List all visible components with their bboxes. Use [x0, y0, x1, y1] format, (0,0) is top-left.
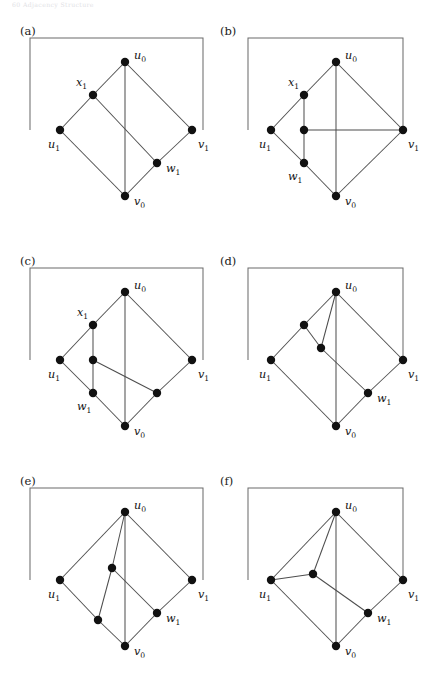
graph-panel-f: (f)u0u1v1w1v0 [220, 470, 435, 678]
graph-frame [248, 488, 403, 580]
graph-edge-w1-v0 [93, 393, 125, 426]
graph-node-m2 [94, 616, 102, 624]
vertex-label-v1: v1 [408, 588, 419, 603]
vertex-label-w1: w1 [166, 162, 180, 177]
vertex-label-u0: u0 [345, 49, 357, 64]
graph-edge-m1-w1 [112, 568, 157, 613]
graph-node-w1 [300, 159, 308, 167]
vertex-label-v1: v1 [198, 588, 209, 603]
graph-panel-a: (a)u0x1u1v1w1v0 [20, 20, 235, 238]
graph-node-v0 [121, 192, 129, 200]
graph-edge-u1-w1 [271, 130, 304, 163]
vertex-label-v0: v0 [345, 195, 356, 210]
graph-edge-x1-u0 [93, 292, 125, 325]
vertex-label-v0: v0 [345, 645, 356, 660]
vertex-label-w1: w1 [377, 612, 391, 627]
graph-frame [30, 38, 203, 130]
graph-node-u0 [121, 508, 129, 516]
graph-edge-m2-v0 [98, 620, 125, 646]
graph-edge-u0-v1 [125, 62, 192, 130]
graph-node-w1 [153, 609, 161, 617]
graph-node-v1 [399, 356, 407, 364]
graph-node-w1 [364, 389, 372, 397]
page-header: 60 Adjacency Structure [12, 1, 94, 8]
graph-node-m1 [300, 126, 308, 134]
graph-edge-m1-u0 [313, 512, 336, 574]
graph-node-u0 [121, 58, 129, 66]
graph-edge-m2-v1 [157, 360, 192, 393]
graph-panel-b: (b)u0x1u1w1v1v0 [220, 20, 435, 238]
vertex-label-w1: w1 [166, 612, 180, 627]
graph-canvas-a: u0x1u1v1w1v0 [20, 20, 235, 238]
graph-canvas-c: u0x1u1w1v1v0 [20, 250, 235, 468]
graph-edge-m1-w1 [313, 574, 368, 613]
graph-edge-v0-w1 [125, 613, 157, 646]
graph-node-v1 [399, 126, 407, 134]
graph-edge-v0-v1 [336, 130, 403, 196]
vertex-label-u0: u0 [345, 279, 357, 294]
graph-edge-v0-w1 [125, 163, 157, 196]
graph-node-v0 [121, 642, 129, 650]
vertex-label-u1: u1 [259, 588, 271, 603]
graph-node-v0 [332, 642, 340, 650]
graph-node-u1 [56, 576, 64, 584]
graph-node-w1 [153, 159, 161, 167]
graph-node-u1 [56, 356, 64, 364]
vertex-label-u0: u0 [345, 499, 357, 514]
vertex-label-v1: v1 [198, 368, 209, 383]
graph-edge-v0-w1 [336, 613, 368, 646]
graph-node-x1 [300, 91, 308, 99]
graph-node-u1 [267, 576, 275, 584]
graph-edge-u1-v0 [271, 360, 336, 426]
vertex-label-x1: x1 [288, 76, 299, 91]
vertex-label-u0: u0 [134, 279, 146, 294]
vertex-label-v1: v1 [198, 138, 209, 153]
graph-panel-d: (d)u0u1v1w1v0 [220, 250, 435, 468]
graph-edge-u1-x1 [60, 325, 93, 360]
graph-node-x1 [89, 321, 97, 329]
graph-node-v0 [121, 422, 129, 430]
graph-node-v0 [332, 192, 340, 200]
graph-node-v1 [399, 576, 407, 584]
graph-edge-v0-m2 [125, 393, 157, 426]
graph-edge-u0-v1 [336, 512, 403, 580]
graph-node-u0 [332, 288, 340, 296]
graph-edge-w1-v1 [157, 580, 192, 613]
graph-frame [30, 268, 203, 360]
graph-node-m1 [89, 356, 97, 364]
graph-node-m1 [300, 321, 308, 329]
graph-node-u0 [332, 58, 340, 66]
graph-node-w1 [364, 609, 372, 617]
graph-edge-w1-v1 [157, 130, 192, 163]
graph-panel-c: (c)u0x1u1w1v1v0 [20, 250, 235, 468]
graph-edge-m1-m2 [304, 325, 321, 348]
graph-node-u0 [332, 508, 340, 516]
graph-edge-u1-v0 [60, 130, 125, 196]
graph-node-u1 [267, 126, 275, 134]
graph-edge-u0-v1 [125, 512, 192, 580]
vertex-label-u1: u1 [259, 138, 271, 153]
graph-node-m1 [108, 564, 116, 572]
vertex-label-u0: u0 [134, 499, 146, 514]
graph-node-m2 [317, 344, 325, 352]
graph-edge-w1-v1 [368, 580, 403, 613]
graph-edge-v0-w1 [336, 393, 368, 426]
vertex-label-w1: w1 [77, 400, 91, 415]
graph-edge-u1-m2 [60, 580, 98, 620]
graph-node-u0 [121, 288, 129, 296]
vertex-label-v1: v1 [408, 138, 419, 153]
graph-node-m2 [153, 389, 161, 397]
vertex-label-x1: x1 [76, 76, 87, 91]
vertex-label-u1: u1 [48, 588, 60, 603]
graph-edge-u1-x1 [271, 95, 304, 130]
graph-edge-u0-v1 [336, 62, 403, 130]
vertex-label-u1: u1 [48, 138, 60, 153]
vertex-label-u1: u1 [259, 368, 271, 383]
vertex-label-v0: v0 [134, 425, 145, 440]
vertex-label-v0: v0 [345, 425, 356, 440]
graph-edge-x1-u0 [93, 62, 125, 95]
graph-node-u1 [56, 126, 64, 134]
graph-node-x1 [89, 91, 97, 99]
graph-edge-x1-u0 [304, 62, 336, 95]
graph-edge-m1-u0 [112, 512, 125, 568]
